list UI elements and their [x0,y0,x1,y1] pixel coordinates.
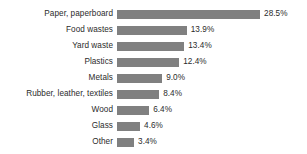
value-label: 4.6% [140,121,163,131]
chart-row: Other 3.4% [0,134,307,150]
bar-area: 6.4% [117,102,307,118]
bar [117,122,140,131]
bar-area: 9.0% [117,70,307,86]
category-label: Yard waste [0,41,117,51]
bar-area: 13.4% [117,38,307,54]
category-label: Wood [0,105,117,115]
chart-row: Food wastes 13.9% [0,22,307,38]
bar [117,90,159,99]
chart-row: Yard waste 13.4% [0,38,307,54]
bar [117,74,162,83]
chart-row: Plastics 12.4% [0,54,307,70]
value-label: 9.0% [162,73,185,83]
category-label: Metals [0,73,117,83]
category-label: Other [0,137,117,147]
value-label: 3.4% [134,137,157,147]
category-label: Glass [0,121,117,131]
bar-area: 12.4% [117,54,307,70]
bar-area: 13.9% [117,22,307,38]
value-label: 8.4% [159,89,182,99]
bar [117,138,134,147]
value-label: 12.4% [179,57,206,67]
bar-area: 3.4% [117,134,307,150]
bar [117,26,187,35]
bar-area: 8.4% [117,86,307,102]
category-label: Rubber, leather, textiles [0,89,117,99]
category-label: Food wastes [0,25,117,35]
chart-row: Glass 4.6% [0,118,307,134]
value-label: 13.9% [187,25,214,35]
chart-row: Paper, paperboard 28.5% [0,6,307,22]
category-label: Plastics [0,57,117,67]
bar [117,106,149,115]
bar [117,42,184,51]
chart-row: Rubber, leather, textiles 8.4% [0,86,307,102]
bar [117,58,179,67]
bar-area: 4.6% [117,118,307,134]
value-label: 28.5% [260,9,287,19]
bar [117,10,260,19]
value-label: 6.4% [149,105,172,115]
category-label: Paper, paperboard [0,9,117,19]
value-label: 13.4% [184,41,211,51]
chart-row: Wood 6.4% [0,102,307,118]
horizontal-bar-chart: Paper, paperboard 28.5% Food wastes 13.9… [0,0,307,154]
bar-area: 28.5% [117,6,307,22]
chart-row: Metals 9.0% [0,70,307,86]
